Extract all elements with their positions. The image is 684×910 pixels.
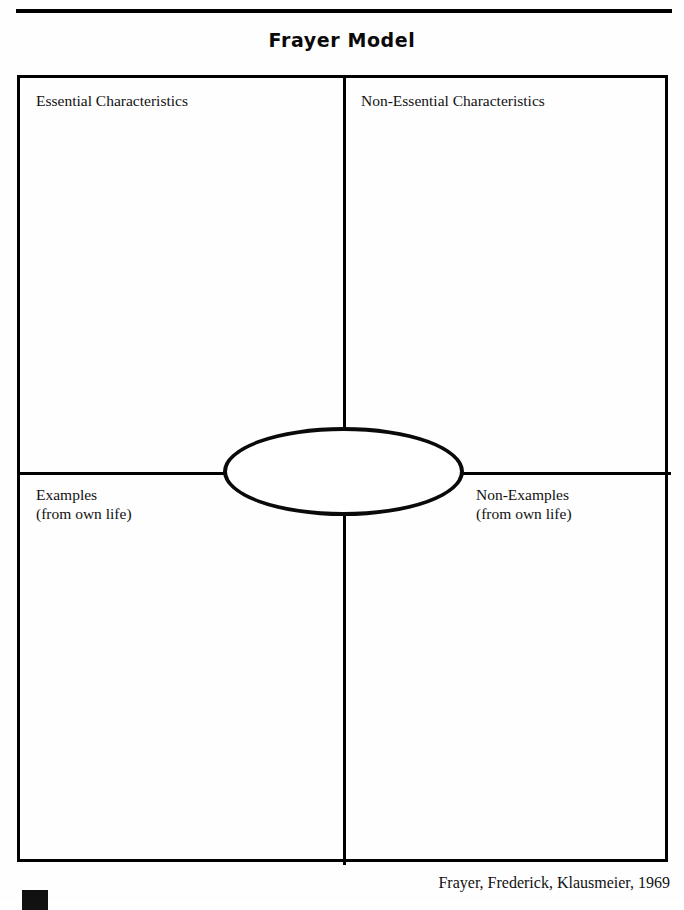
attribution-credit: Frayer, Frederick, Klausmeier, 1969: [0, 873, 670, 893]
black-square-mark-icon: [22, 888, 48, 910]
page-title: Frayer Model: [0, 28, 684, 52]
quadrant-label-examples: Examples (from own life): [36, 485, 132, 523]
top-rule-divider: [16, 9, 672, 13]
center-concept-oval[interactable]: [223, 427, 464, 516]
quadrant-label-non-essential-characteristics: Non-Essential Characteristics: [361, 91, 545, 110]
quadrant-label-essential-characteristics: Essential Characteristics: [36, 91, 188, 110]
quadrant-label-non-examples: Non-Examples (from own life): [476, 485, 572, 523]
frayer-model-frame: Essential Characteristics Non-Essential …: [17, 75, 668, 862]
